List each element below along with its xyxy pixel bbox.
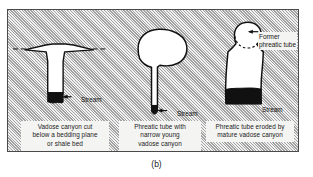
caption-2-line-3: vadose canyon bbox=[121, 140, 199, 148]
stream-deposit-2 bbox=[152, 105, 158, 114]
vadose-canyon-passage bbox=[25, 44, 94, 93]
phreatic-tube-passage bbox=[138, 29, 187, 105]
caption-vadose-canyon: Vadose canyon cut below a bedding plane … bbox=[21, 121, 109, 151]
caption-phreatic-tube-mature: Phreatic tube eroded by mature vadose ca… bbox=[206, 121, 294, 142]
stream-arrow-1 bbox=[63, 95, 72, 99]
stream-label-1: Stream bbox=[80, 96, 103, 105]
figure-frame: Stream Stream Stream Former phreatic tub… bbox=[7, 9, 299, 152]
caption-1-line-3: or shale bed bbox=[23, 140, 107, 148]
diagram-phreatic-tube-young bbox=[138, 29, 187, 114]
caption-2-line-2: narrow young bbox=[121, 131, 199, 139]
stream-deposit-1 bbox=[48, 93, 63, 103]
stream-label-2: Stream bbox=[176, 110, 199, 119]
figure-label: (b) bbox=[0, 159, 313, 169]
caption-1-line-2: below a bedding plane bbox=[23, 131, 107, 139]
caption-2-line-1: Phreatic tube with bbox=[121, 123, 199, 131]
diagram-vadose-canyon bbox=[13, 44, 105, 103]
former-phreatic-tube-label-line-1: Former bbox=[259, 33, 296, 41]
caption-phreatic-tube-young: Phreatic tube with narrow young vadose c… bbox=[119, 121, 201, 151]
former-phreatic-tube-label-line-2: phreatic tube bbox=[259, 41, 296, 49]
stream-label-3: Stream bbox=[261, 106, 284, 115]
stream-deposit-3 bbox=[226, 88, 261, 104]
stream-arrow-2 bbox=[157, 109, 166, 113]
cave-passage-evolution-figure: Stream Stream Stream Former phreatic tub… bbox=[0, 0, 313, 177]
former-phreatic-tube-label: Former phreatic tube bbox=[258, 32, 297, 50]
caption-3-line-1: Phreatic tube eroded by bbox=[208, 123, 292, 131]
caption-1-line-1: Vadose canyon cut bbox=[23, 123, 107, 131]
caption-3-line-2: mature vadose canyon bbox=[208, 131, 292, 139]
